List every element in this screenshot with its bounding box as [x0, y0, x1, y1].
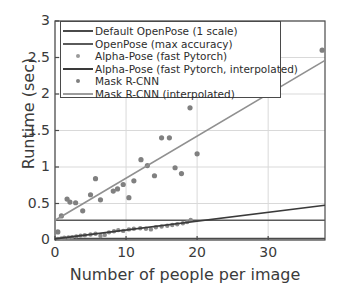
legend-line-swatch [63, 68, 93, 70]
y-tick-label: 1 [41, 159, 50, 173]
data-point [88, 192, 93, 197]
legend-label: Mask R-CNN (interpolated) [95, 88, 235, 100]
legend-item: Mask R-CNN (interpolated) [61, 88, 280, 100]
data-point [115, 186, 120, 191]
data-point [126, 195, 131, 200]
legend-dot-swatch [76, 54, 80, 58]
figure: Runtime (sec) Number of people per image… [0, 0, 341, 293]
legend-dot-swatch [76, 79, 80, 83]
x-tick-label: 30 [256, 245, 280, 259]
x-tick-label: 20 [185, 245, 209, 259]
x-tick-label: 10 [114, 245, 138, 259]
y-tick-label: 2 [41, 86, 50, 100]
legend-item: Alpha-Pose (fast Pytorch, interpolated) [61, 63, 280, 75]
data-point [320, 48, 325, 53]
data-point [179, 171, 184, 176]
x-tick-label: 0 [43, 245, 67, 259]
legend-label: Default OpenPose (1 scale) [95, 25, 238, 37]
data-point [159, 135, 164, 140]
data-point [121, 182, 126, 187]
legend-line-swatch [63, 30, 93, 32]
data-point [172, 165, 177, 170]
series-trend-line [55, 205, 325, 239]
legend-line-swatch [63, 93, 93, 95]
legend-label: Alpha-Pose (fast Pytorch, interpolated) [95, 63, 298, 75]
data-point [73, 200, 78, 205]
data-point [152, 173, 157, 178]
chart-legend: Default OpenPose (1 scale)OpenPose (max … [60, 21, 281, 98]
y-tick-label: 2.5 [28, 50, 50, 64]
data-point [93, 176, 98, 181]
legend-label: OpenPose (max accuracy) [95, 38, 232, 50]
data-point [80, 208, 85, 213]
legend-line-swatch [63, 43, 93, 45]
legend-label: Mask R-CNN [95, 75, 159, 87]
y-tick-label: 0.5 [28, 196, 50, 210]
legend-label: Alpha-Pose (fast Pytorch) [95, 50, 227, 62]
y-tick-label: 3 [41, 13, 50, 27]
legend-item: Alpha-Pose (fast Pytorch) [61, 50, 280, 62]
y-tick-label: 0 [41, 232, 50, 246]
data-point [138, 157, 143, 162]
data-point [131, 178, 136, 183]
data-point [98, 234, 102, 238]
data-point [55, 229, 60, 234]
legend-item: Default OpenPose (1 scale) [61, 25, 280, 37]
data-point [67, 199, 72, 204]
y-tick-label: 1.5 [28, 123, 50, 137]
data-point [167, 135, 172, 140]
data-point [98, 197, 103, 202]
legend-item: Mask R-CNN [61, 75, 280, 87]
data-point [195, 151, 200, 156]
data-point [187, 105, 192, 110]
legend-item: OpenPose (max accuracy) [61, 38, 280, 50]
x-axis-label: Number of people per image [40, 265, 330, 284]
